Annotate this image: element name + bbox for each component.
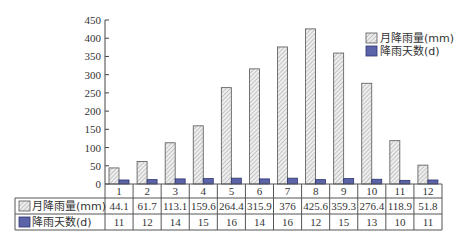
bar-rainfall bbox=[390, 141, 400, 184]
category-label: 6 bbox=[257, 185, 263, 197]
rain-days-value: 13 bbox=[366, 216, 378, 228]
rainfall-value: 113.1 bbox=[163, 200, 187, 212]
rain-days-value: 15 bbox=[338, 216, 350, 228]
category-label: 10 bbox=[366, 185, 378, 197]
rain-days-value: 15 bbox=[198, 216, 210, 228]
category-label: 11 bbox=[395, 185, 406, 197]
category-label: 9 bbox=[341, 185, 347, 197]
y-tick-label: 450 bbox=[85, 14, 102, 26]
legend-label-rain-days: 降雨天数(d) bbox=[380, 44, 440, 58]
category-label: 7 bbox=[285, 185, 291, 197]
bar-rainfall bbox=[109, 168, 119, 184]
rainfall-value: 118.9 bbox=[388, 200, 413, 212]
category-label: 4 bbox=[201, 185, 207, 197]
rainfall-value: 159.6 bbox=[191, 200, 216, 212]
rainfall-value: 276.4 bbox=[359, 200, 384, 212]
bar-rain-days bbox=[316, 180, 326, 184]
category-label: 12 bbox=[422, 185, 433, 197]
rainfall-value: 61.7 bbox=[138, 200, 158, 212]
y-tick-label: 350 bbox=[85, 50, 102, 62]
bar-rain-days bbox=[175, 179, 185, 184]
bar-rain-days bbox=[119, 180, 129, 184]
rain-days-value: 11 bbox=[423, 216, 434, 228]
category-label: 1 bbox=[116, 185, 122, 197]
bar-rain-days bbox=[400, 180, 410, 184]
rainfall-value: 51.8 bbox=[418, 200, 438, 212]
rain-days-value: 12 bbox=[142, 216, 153, 228]
bar-rainfall bbox=[418, 165, 428, 184]
rain-days-value: 14 bbox=[170, 216, 182, 228]
bar-rain-days bbox=[288, 178, 298, 184]
category-label: 5 bbox=[229, 185, 235, 197]
category-label: 8 bbox=[313, 185, 319, 197]
row-label-rainfall: 月降雨量(mm) bbox=[32, 199, 106, 213]
bar-rain-days bbox=[147, 180, 157, 184]
y-tick-label: 0 bbox=[96, 178, 102, 190]
rainfall-value: 425.6 bbox=[303, 200, 328, 212]
rain-days-value: 10 bbox=[394, 216, 406, 228]
bar-rainfall bbox=[249, 69, 259, 184]
rain-days-value: 16 bbox=[282, 216, 294, 228]
bar-rainfall bbox=[221, 88, 231, 184]
bar-rain-days bbox=[344, 179, 354, 184]
y-tick-label: 300 bbox=[85, 69, 102, 81]
category-label: 2 bbox=[144, 185, 150, 197]
row-label-rain-days: 降雨天数(d) bbox=[32, 215, 92, 229]
rainfall-chart: 050100150200250300350400450 月降雨量(mm)降雨天数… bbox=[0, 0, 454, 243]
legend: 月降雨量(mm)降雨天数(d) bbox=[366, 31, 454, 58]
rain-days-value: 16 bbox=[226, 216, 238, 228]
y-tick-label: 150 bbox=[85, 123, 102, 135]
bar-rain-days bbox=[231, 178, 241, 184]
y-tick-label: 100 bbox=[85, 142, 102, 154]
rain-days-value: 14 bbox=[254, 216, 266, 228]
data-table: 123456789101112月降雨量(mm)降雨天数(d)44.161.711… bbox=[15, 184, 442, 230]
rain-days-value: 11 bbox=[114, 216, 125, 228]
row-swatch-rainfall bbox=[19, 201, 30, 211]
bar-rainfall bbox=[334, 53, 344, 184]
legend-label-rainfall: 月降雨量(mm) bbox=[380, 31, 454, 45]
rain-days-value: 12 bbox=[310, 216, 321, 228]
bar-rain-days bbox=[203, 179, 213, 184]
rainfall-value: 376 bbox=[279, 200, 296, 212]
bar-rainfall bbox=[137, 162, 147, 184]
rainfall-value: 44.1 bbox=[109, 200, 128, 212]
y-tick-label: 400 bbox=[85, 32, 102, 44]
bar-rainfall bbox=[165, 143, 175, 184]
rainfall-value: 315.9 bbox=[247, 200, 272, 212]
category-label: 3 bbox=[172, 185, 178, 197]
bar-rain-days bbox=[428, 180, 438, 184]
bar-rain-days bbox=[259, 179, 269, 184]
legend-swatch-rain-days bbox=[366, 46, 377, 56]
y-axis: 050100150200250300350400450 bbox=[85, 14, 110, 190]
y-tick-label: 50 bbox=[90, 160, 102, 172]
rainfall-value: 264.4 bbox=[219, 200, 244, 212]
bar-rainfall bbox=[193, 126, 203, 184]
y-tick-label: 250 bbox=[85, 87, 102, 99]
bar-rainfall bbox=[362, 83, 372, 184]
rainfall-value: 359.3 bbox=[331, 200, 356, 212]
bar-rainfall bbox=[306, 29, 316, 184]
row-swatch-rain-days bbox=[19, 217, 30, 227]
bar-rain-days bbox=[372, 179, 382, 184]
bar-rainfall bbox=[278, 47, 288, 184]
y-tick-label: 200 bbox=[85, 105, 102, 117]
legend-swatch-rainfall bbox=[366, 33, 377, 43]
